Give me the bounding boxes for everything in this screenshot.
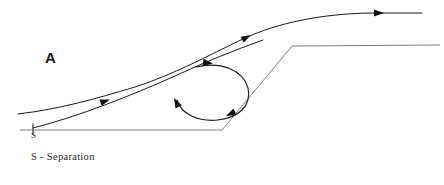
outer-streamline-arrow-mid bbox=[241, 32, 253, 43]
panel-label-a: A bbox=[45, 50, 56, 65]
separation-flow-diagram: A S S - Separation bbox=[0, 0, 444, 185]
outer-streamline bbox=[18, 13, 422, 114]
legend-separation: S - Separation bbox=[31, 152, 95, 163]
separation-point-label: S bbox=[31, 131, 36, 140]
recirculation-vortex-loop bbox=[177, 65, 249, 120]
outer-streamline-arrow-right bbox=[374, 10, 384, 17]
